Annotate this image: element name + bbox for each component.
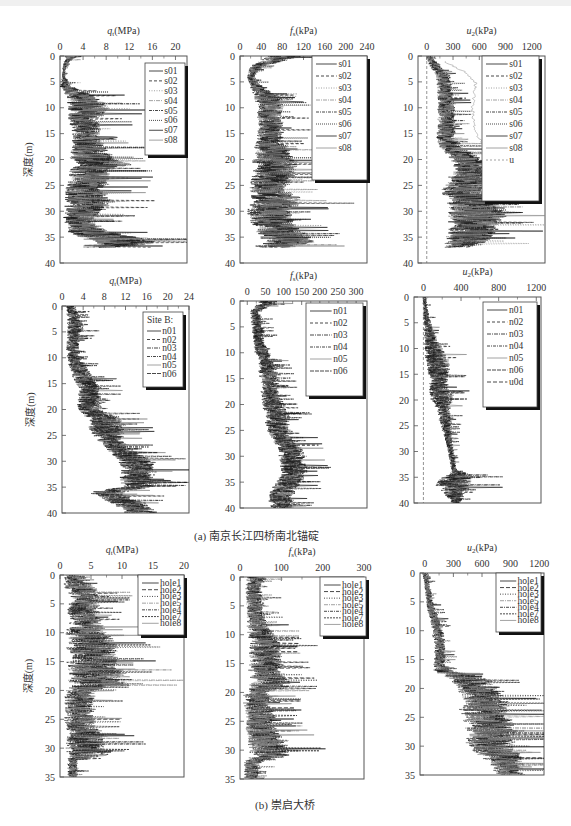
legend: hole1hole2hole3hole5hole4hole7hole8 (138, 575, 187, 638)
x-tick-label: 4 (81, 291, 86, 302)
y-tick-label: 25 (399, 420, 409, 431)
x-tick-label: 240 (360, 41, 375, 52)
y-tick-label: 25 (47, 430, 57, 441)
x-axis-label-unit: (MPa) (113, 544, 139, 556)
x-tick-label: 12 (124, 41, 134, 52)
legend-label-s05: s05 (338, 107, 351, 117)
y-tick-label: 15 (403, 128, 413, 139)
y-tick-label: 15 (399, 369, 409, 380)
y-tick-label: 20 (225, 399, 235, 410)
legend-label-s07: s07 (509, 131, 522, 141)
legend-label-s07: s07 (338, 131, 351, 141)
x-axis-label: u2(kPa) (462, 266, 492, 279)
y-tick-label: 35 (225, 232, 235, 243)
legend-label-u0d: u0d (509, 377, 524, 387)
caption-a: (a) 南京长江四桥南北锚碇 (194, 527, 319, 543)
y-tick-label: 25 (45, 180, 55, 191)
y-tick-label: 5 (50, 76, 55, 87)
x-tick-label: 0 (58, 41, 63, 52)
y-tick-label: 0 (404, 292, 409, 303)
y-tick-label: 15 (405, 654, 415, 665)
x-tick-label: 20 (170, 41, 180, 52)
y-tick-label: 20 (405, 683, 415, 694)
y-tick-label: 20 (45, 154, 55, 165)
x-tick-label: 200 (312, 286, 327, 297)
y-tick-label: 15 (225, 658, 235, 669)
y-tick-label: 15 (45, 128, 55, 139)
y-tick-label: 15 (225, 128, 235, 139)
x-axis-label: u2(kPa) (466, 25, 496, 38)
legend: Site B:n01n02n03n04n05n06 (143, 312, 186, 390)
x-tick-label: 100 (276, 286, 291, 297)
legend-label-s07: s07 (164, 125, 177, 135)
legend-label-s03: s03 (338, 83, 351, 93)
x-axis-label: qt(MPa) (109, 275, 142, 288)
y-tick-label: 35 (47, 482, 57, 493)
plot-area (60, 56, 218, 247)
y-axis-label: 深度(m) (22, 142, 35, 176)
y-tick-label: 10 (399, 343, 409, 354)
x-tick-label: 0 (245, 286, 250, 297)
subplot-a3: 030060090012000510152025303540u2(kPa)s01… (403, 25, 564, 269)
x-axis-label: fs(kPa) (290, 270, 317, 283)
y-tick-label: 25 (225, 180, 235, 191)
x-axis-label: fs(kPa) (288, 546, 315, 559)
y-tick-label: 0 (52, 301, 57, 312)
legend: s01s02s03s04s05s06s07s08 (145, 63, 188, 158)
legend-label-n02: n02 (333, 318, 348, 328)
x-tick-label: 160 (317, 41, 332, 52)
x-tick-label: 200 (338, 41, 353, 52)
y-tick-label: 35 (45, 232, 55, 243)
legend-label-s08: s08 (338, 143, 351, 153)
y-tick-label: 35 (403, 232, 413, 243)
legend-label-s03: s03 (164, 86, 177, 96)
x-tick-label: 8 (102, 291, 107, 302)
legend-label-s08: s08 (164, 135, 177, 145)
legend-label-s04: s04 (164, 96, 177, 106)
y-tick-label: 40 (45, 258, 55, 269)
x-tick-label: 12 (121, 291, 131, 302)
legend-label-u: u (509, 155, 514, 165)
plot-area (423, 573, 566, 775)
legend-label-n01: n01 (333, 306, 348, 316)
y-tick-label: 0 (50, 570, 55, 581)
x-tick-label: 900 (498, 41, 513, 52)
y-tick-label: 15 (225, 373, 235, 384)
x-tick-label: 900 (503, 558, 518, 569)
legend-label-n04: n04 (333, 342, 348, 352)
x-axis-label-unit: (kPa) (294, 546, 316, 558)
legend-label-s04: s04 (509, 95, 522, 105)
y-tick-label: 0 (230, 296, 235, 307)
legend-label-s02: s02 (164, 76, 177, 86)
y-tick-label: 40 (403, 258, 413, 269)
x-tick-label: 600 (472, 41, 487, 52)
x-tick-label: 600 (475, 558, 490, 569)
x-tick-label: 300 (349, 286, 364, 297)
legend-label-s05: s05 (509, 107, 522, 117)
x-axis-label: qt(MPa) (106, 544, 139, 557)
x-tick-label: 250 (330, 286, 345, 297)
subplot-b3: 040080012000510152025303540u2(kPa)n01n02… (399, 266, 546, 509)
x-axis-label-unit: (kPa) (471, 266, 493, 278)
y-tick-label: 0 (230, 572, 235, 583)
subplot-b1: 048121620240510152025303540qt(MPa)深度(m)S… (24, 275, 194, 519)
y-tick-label: 30 (225, 745, 235, 756)
subplot-a1: 0481216200510152025303540qt(MPa)深度(m)s01… (22, 25, 218, 269)
y-tick-label: 30 (225, 451, 235, 462)
legend-label-s04: s04 (338, 95, 351, 105)
x-tick-label: 5 (89, 560, 94, 571)
x-tick-label: 150 (294, 286, 309, 297)
legend-label-s08: s08 (509, 143, 522, 153)
y-tick-label: 20 (399, 395, 409, 406)
legend-label-n01: n01 (509, 305, 524, 315)
legend-label-n03: n03 (333, 330, 348, 340)
subplot-c1: 0510152005101520253035qt(MPa)深度(m)hole1h… (22, 544, 194, 783)
y-axis-label: 深度(m) (24, 392, 37, 426)
y-tick-label: 10 (225, 629, 235, 640)
y-tick-label: 30 (225, 206, 235, 217)
x-axis-label-unit: (MPa) (116, 275, 142, 287)
legend-label-s06: s06 (509, 119, 522, 129)
y-tick-label: 20 (403, 154, 413, 165)
y-tick-label: 10 (225, 347, 235, 358)
legend-label-s06: s06 (338, 119, 351, 129)
